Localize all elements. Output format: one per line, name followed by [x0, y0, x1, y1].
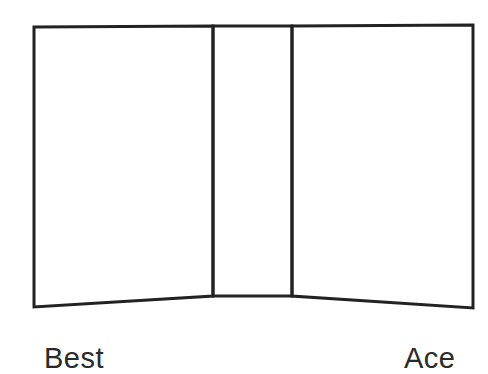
left-panel [34, 26, 213, 307]
right-panel-label: Ace [404, 344, 455, 373]
open-book-diagram [0, 0, 488, 374]
right-panel [292, 25, 473, 308]
spine-panel [213, 26, 292, 296]
left-panel-label: Best [44, 344, 104, 373]
